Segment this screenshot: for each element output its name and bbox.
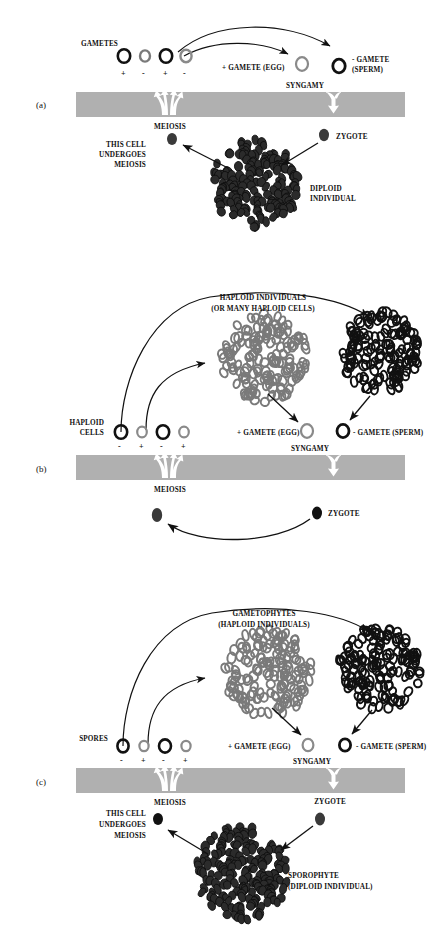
gamete-sign-4: - xyxy=(183,69,186,78)
sperm-cell xyxy=(333,59,345,73)
panel-a-svg: GAMETES + - + - + GAMETE (EGG) - GAMETE … xyxy=(0,0,436,260)
panel-c: GAMETOPHYTES (HAPLOID INDIVIDUALS) SPORE… xyxy=(0,588,436,952)
arc-to-gray-mass xyxy=(148,678,205,744)
gamete-sign-3: + xyxy=(163,69,168,78)
gametophyte-label-line2: (HAPLOID INDIVIDUALS) xyxy=(218,621,310,629)
gametophyte-label-line1: GAMETOPHYTES xyxy=(232,610,295,618)
black-mass-to-sperm-arrow xyxy=(350,396,370,420)
gamete-row xyxy=(118,49,192,63)
gametophyte-black-mass xyxy=(335,623,425,714)
haploid-cells-label-line1: HAPLOID xyxy=(69,419,104,427)
this-cell-line1: THIS CELL xyxy=(106,141,146,149)
haploid-mass-label-line2: (OR MANY HAPLOID CELLS) xyxy=(211,305,315,313)
spore-cell-3 xyxy=(159,739,171,752)
gray-mass-to-egg-arrow xyxy=(268,394,298,422)
sporophyte-label-line1: SPOROPHYTE xyxy=(288,872,339,880)
panel-letter-b: (b) xyxy=(36,464,47,474)
arc-to-black-mass xyxy=(121,293,368,432)
egg-cell xyxy=(303,739,314,751)
mass-to-meiotic-arrow xyxy=(183,145,228,168)
haploid-cell-3 xyxy=(157,425,169,439)
diploid-label-line2: INDIVIDUAL xyxy=(310,195,356,203)
haploid-gray-mass xyxy=(217,308,311,407)
ploidy-band xyxy=(76,768,405,793)
haploid-sign-1: - xyxy=(118,442,121,451)
gamete-cell-4 xyxy=(180,50,191,62)
spore-cell-2 xyxy=(139,741,148,751)
gametes-label: GAMETES xyxy=(81,40,118,48)
spore-sign-4: + xyxy=(183,756,188,765)
syngamy-label: SYNGAMY xyxy=(286,82,325,90)
spores-label: SPORES xyxy=(79,735,108,743)
syngamy-label: SYNGAMY xyxy=(293,758,332,766)
this-cell-line2: UNDERGOES xyxy=(99,821,146,829)
zygote-cell xyxy=(315,813,325,826)
sperm-cell xyxy=(337,424,349,437)
gamete-sign-2: - xyxy=(142,69,145,78)
sporophyte-label-line2: (DIPLOID INDIVIDUAL) xyxy=(288,883,373,891)
zygote-cell xyxy=(312,507,322,520)
black-mass-to-sperm-arrow xyxy=(352,710,372,734)
zygote-cell xyxy=(319,129,329,141)
panel-b: HAPLOID INDIVIDUALS (OR MANY HAPLOID CEL… xyxy=(0,270,436,550)
diploid-label-line1: DIPLOID xyxy=(310,185,342,193)
sperm-label: - GAMETE (SPERM) xyxy=(356,743,427,751)
sperm-label-line1: - GAMETE xyxy=(352,56,389,64)
sporophyte-mass xyxy=(193,822,291,924)
gamete-signs: + - + - xyxy=(121,69,186,78)
haploid-sign-2: + xyxy=(139,442,144,451)
spore-sign-1: - xyxy=(120,756,123,765)
this-cell-line1: THIS CELL xyxy=(106,810,146,818)
gametophyte-gray-mass xyxy=(220,624,316,719)
meiotic-cell xyxy=(153,813,163,825)
spore-signs: - + - + xyxy=(120,756,188,765)
gamete-cell-1 xyxy=(118,49,130,63)
panel-c-svg: GAMETOPHYTES (HAPLOID INDIVIDUALS) SPORE… xyxy=(0,588,436,952)
gamete-cell-2 xyxy=(140,50,150,61)
this-cell-line3: MEIOSIS xyxy=(114,161,146,169)
egg-cell xyxy=(301,424,313,438)
zygote-to-meiotic-arrow xyxy=(168,519,310,540)
sperm-cell xyxy=(339,739,350,751)
meiotic-cell xyxy=(152,508,162,522)
egg-label: + GAMETE (EGG) xyxy=(237,429,300,437)
sperm-label: - GAMETE (SPERM) xyxy=(353,429,424,437)
egg-label: + GAMETE (EGG) xyxy=(228,743,291,751)
arc-to-gray-mass xyxy=(146,363,205,430)
meiosis-label: MEIOSIS xyxy=(154,799,186,807)
haploid-black-mass xyxy=(338,306,422,396)
zygote-to-mass-arrow xyxy=(281,826,313,850)
spore-row xyxy=(117,739,190,752)
diploid-individual-mass xyxy=(209,135,303,232)
spore-sign-2: + xyxy=(141,756,146,765)
zygote-label: ZYGOTE xyxy=(328,510,360,518)
haploid-cells-label-line2: CELLS xyxy=(80,429,104,437)
this-cell-line3: MEIOSIS xyxy=(114,832,146,840)
haploid-cell-2 xyxy=(137,427,147,438)
spore-sign-3: - xyxy=(162,756,165,765)
gamete-cell-3 xyxy=(160,49,172,63)
syngamy-label: SYNGAMY xyxy=(291,445,330,453)
haploid-cell-row xyxy=(115,425,189,439)
ploidy-band xyxy=(76,92,405,117)
meiosis-label: MEIOSIS xyxy=(154,123,186,131)
panel-letter-c: (c) xyxy=(36,777,46,787)
panel-a: GAMETES + - + - + GAMETE (EGG) - GAMETE … xyxy=(0,0,436,260)
gamete-sign-1: + xyxy=(121,69,126,78)
haploid-sign-4: + xyxy=(181,442,186,451)
meiosis-label: MEIOSIS xyxy=(154,486,186,494)
panel-b-svg: HAPLOID INDIVIDUALS (OR MANY HAPLOID CEL… xyxy=(0,270,436,550)
haploid-signs: - + - + xyxy=(118,442,186,451)
zygote-label: ZYGOTE xyxy=(314,798,346,806)
spore-cell-4 xyxy=(181,741,190,751)
haploid-cell-4 xyxy=(179,427,189,438)
ploidy-band xyxy=(76,455,405,480)
meiotic-cell xyxy=(167,133,177,145)
haploid-sign-3: - xyxy=(160,442,163,451)
arc-to-egg xyxy=(184,43,288,56)
egg-cell xyxy=(296,57,308,71)
mass-to-meiotic-arrow xyxy=(168,830,208,854)
sperm-label-line2: (SPERM) xyxy=(352,66,383,74)
zygote-label: ZYGOTE xyxy=(336,133,368,141)
panel-letter-a: (a) xyxy=(36,100,46,110)
